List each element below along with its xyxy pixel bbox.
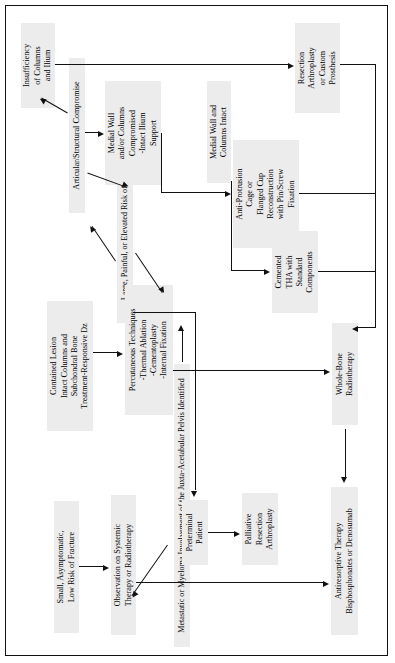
arrowhead-root-to-large: [178, 325, 184, 331]
connector-medial-intact-jog: [231, 181, 232, 271]
arrowhead-insufficiency-to-resection: [288, 63, 294, 69]
arrowhead-large-to-articular: [88, 224, 96, 232]
connector-resection-rail: [375, 65, 376, 328]
node-small-asymptomatic: Small, Asymptomatic, Low Risk of Fractur…: [54, 501, 79, 633]
page-border-frame: Metastatic or Myeloma Involvement of the…: [5, 5, 388, 656]
node-insufficiency: Insufficiency of Columns and Ilium: [21, 23, 55, 108]
node-percutaneous: Percutaneous Techniques -Thermal Ablatio…: [125, 285, 173, 415]
flowchart-canvas: Metastatic or Myeloma Involvement of the…: [7, 8, 386, 653]
node-medial-wall-compromised-label: Medial Wall and/or Columns Compromised -…: [107, 107, 159, 160]
arrowhead-rail-to-wbrt: [352, 326, 358, 332]
connector-wbrt-to-antiresorptive: [345, 429, 346, 477]
arrowhead-observation-to-antiresorptive: [323, 581, 329, 587]
node-anti-protrusion-label: Anti-Protrusion Cage or Flanged Cup Reco…: [235, 168, 297, 219]
node-percutaneous-label: Percutaneous Techniques -Thermal Ablatio…: [128, 309, 170, 392]
arrowhead-contained-to-percutaneous: [117, 351, 123, 357]
node-whole-bone-rt: Whole-Bone Radiotherapy: [332, 323, 358, 425]
node-contained-lesion: Contained Lesion Intact Columns and Subc…: [47, 301, 93, 431]
connector-root-to-large: [182, 330, 183, 362]
node-preterminal-label: Preterminal Patient: [185, 513, 206, 551]
node-antiresorptive: Antiresorptive Therapy Bisphosphonates o…: [331, 487, 358, 635]
connector-anti-rail-drop: [299, 193, 376, 194]
arrowhead-percutaneous-to-wbrt: [324, 369, 330, 375]
arrowhead-medial-intact-to-tha: [264, 269, 270, 275]
node-medial-wall-intact: Medial Wall and Columns Intact: [207, 81, 231, 183]
flowchart-page: Metastatic or Myeloma Involvement of the…: [0, 0, 395, 663]
node-antiresorptive-label: Antiresorptive Therapy Bisphosphonates o…: [334, 508, 355, 614]
node-cemented-tha: Cemented THA with Standard Components: [272, 231, 318, 313]
node-palliative: Palliative Resection Arthroplasty: [242, 493, 278, 565]
connector-small-to-observation: [79, 566, 103, 567]
node-insufficiency-label: Insufficiency of Columns and Ilium: [22, 44, 53, 87]
node-observation: Observation on Systemic Therapy or Radio…: [111, 495, 136, 635]
node-articular-compromise-label: Articular/Structural Compromise: [72, 81, 82, 189]
connector-articular-to-medial-comp: [85, 132, 99, 133]
connector-root-to-small: [132, 545, 168, 596]
node-preterminal: Preterminal Patient: [182, 500, 208, 565]
node-medial-wall-intact-label: Medial Wall and Columns Intact: [209, 105, 230, 159]
connector-observation-to-antiresorptive: [136, 582, 323, 583]
arrowhead-preterminal-to-palliative: [234, 531, 240, 537]
node-medial-wall-compromised: Medial Wall and/or Columns Compromised -…: [105, 81, 161, 185]
arrowhead-wbrt-to-antiresorptive: [341, 477, 347, 483]
connector-large-drop: [133, 312, 195, 313]
arrowhead-articular-to-medial-comp: [98, 131, 104, 137]
connector-contained-to-percutaneous: [93, 352, 117, 353]
node-whole-bone-rt-label: Whole-Bone Radiotherapy: [335, 352, 356, 396]
node-resection-arthroplasty-label: Resection Arthroplasty or Custom Prosthe…: [297, 47, 339, 88]
connector-tha-rail-drop: [318, 271, 376, 272]
node-palliative-label: Palliative Resection Arthroplasty: [244, 508, 275, 549]
node-articular-compromise: Articular/Structural Compromise: [69, 58, 85, 213]
node-small-asymptomatic-label: Small, Asymptomatic, Low Risk of Fractur…: [56, 531, 77, 604]
node-cemented-tha-label: Cemented THA with Standard Components: [274, 251, 316, 292]
connector-medial-comp-jog: [161, 133, 162, 193]
arrowhead-small-to-observation: [103, 565, 109, 571]
node-resection-arthroplasty: Resection Arthroplasty or Custom Prosthe…: [295, 23, 340, 113]
connector-rail-to-wbrt: [358, 327, 376, 328]
connector-large-to-preterminal: [195, 312, 196, 490]
node-contained-lesion-label: Contained Lesion Intact Columns and Subc…: [49, 323, 91, 408]
connector-large-to-articular: [92, 226, 116, 261]
connector-preterminal-to-palliative: [208, 532, 234, 533]
connector-resection-rail-drop: [340, 64, 376, 65]
connector-insufficiency-to-resection: [55, 64, 288, 65]
connector-medial-intact-to-tha: [231, 270, 264, 271]
connector-percutaneous-to-wbrt: [173, 370, 324, 371]
arrowhead-large-to-preterminal: [191, 491, 197, 497]
connector-medial-comp-to-anti: [161, 192, 225, 193]
